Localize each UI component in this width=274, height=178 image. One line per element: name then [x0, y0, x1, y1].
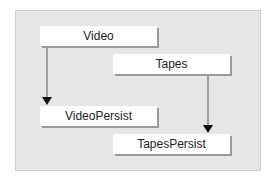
node-label: TapesPersist — [137, 137, 206, 151]
node-label: Tapes — [155, 57, 187, 71]
arrow-tapes-to-tapespersist — [203, 74, 213, 133]
arrow-video-to-videopersist — [42, 46, 52, 105]
node-tapes-persist: TapesPersist — [113, 134, 230, 154]
node-tapes: Tapes — [113, 54, 230, 74]
node-video-persist: VideoPersist — [40, 106, 157, 126]
node-video: Video — [40, 26, 157, 46]
node-label: VideoPersist — [65, 109, 132, 123]
node-label: Video — [83, 29, 113, 43]
